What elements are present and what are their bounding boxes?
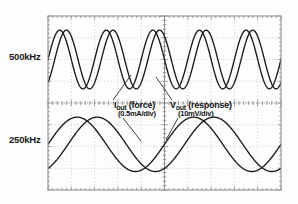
oscilloscope-figure: 500kHz 250kHz Iout (force) (0.5mA/div) V… [0,0,298,204]
annotation-iout-scale: (0.5mA/div) [114,110,156,118]
frequency-label-lower: 250kHz [9,134,41,145]
frequency-label-upper: 500kHz [9,51,41,62]
annotation-iout: Iout (force) (0.5mA/div) [114,101,156,118]
annotation-vout: Vout (response) (10mV/div) [170,101,232,118]
annotation-vout-scale: (10mV/div) [170,110,232,118]
